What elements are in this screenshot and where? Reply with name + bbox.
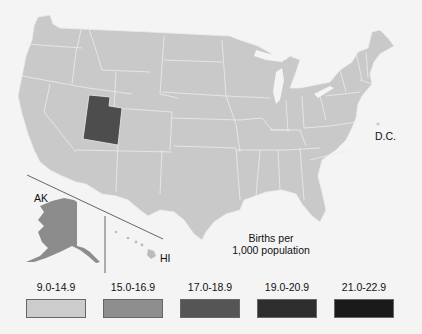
dc-label: D.C. (375, 130, 396, 142)
legend-item: 17.0-18.9 (180, 281, 240, 318)
state-hawaii (115, 231, 156, 259)
map-title-line1: Births per (226, 232, 316, 244)
alaska-label: AK (34, 192, 48, 204)
legend-swatch (180, 299, 240, 318)
legend-item: 21.0-22.9 (334, 281, 394, 318)
legend-label: 15.0-16.9 (103, 281, 163, 294)
dc-marker (376, 122, 379, 125)
legend-item: 19.0-20.9 (257, 281, 317, 318)
legend-label: 17.0-18.9 (180, 281, 240, 294)
hawaii-label: HI (160, 252, 171, 264)
legend-item: 15.0-16.9 (103, 281, 163, 318)
legend-swatch (257, 299, 317, 318)
legend-swatch (26, 299, 86, 318)
legend-item: 9.0-14.9 (26, 281, 86, 318)
state-alaska (26, 198, 100, 263)
map-title: Births per 1,000 population (226, 232, 316, 256)
legend-label: 19.0-20.9 (257, 281, 317, 294)
legend-swatch (103, 299, 163, 318)
legend-swatch (334, 299, 394, 318)
legend-label: 21.0-22.9 (334, 281, 394, 294)
map-title-line2: 1,000 population (226, 244, 316, 256)
legend-label: 9.0-14.9 (26, 281, 86, 294)
